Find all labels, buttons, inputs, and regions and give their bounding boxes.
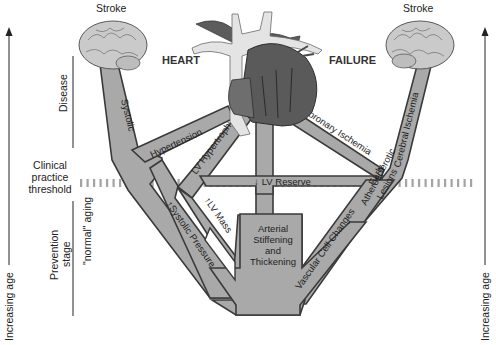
lv-reserve-arrow: ↓ xyxy=(254,176,259,187)
right-brain-icon xyxy=(386,21,454,69)
stage-disease: Disease xyxy=(57,74,69,112)
threshold-line-3: threshold xyxy=(28,183,71,195)
label-arterial-4: Thickening xyxy=(250,256,296,267)
normal-aging-label: "normal" aging xyxy=(81,197,93,265)
label-arterial-3: and xyxy=(265,245,281,256)
threshold-line-2: practice xyxy=(32,171,69,183)
prevention-line-1: Prevention xyxy=(48,230,60,280)
left-stroke-label: Stroke xyxy=(96,2,127,14)
left-brain-icon xyxy=(79,21,147,70)
label-lv-reserve: ↓LV Reserve xyxy=(254,176,311,187)
heart-failure-diagram: Systolic Hypertension LV Hypertrophy ↓LV… xyxy=(0,0,496,345)
band-lv-reserve xyxy=(256,120,273,216)
title-heart: HEART xyxy=(162,54,200,66)
right-stroke-label: Stroke xyxy=(403,2,434,14)
prevention-line-2: stage xyxy=(60,241,72,267)
title-failure: FAILURE xyxy=(329,54,376,66)
left-axis-label: Increasing age xyxy=(3,272,15,341)
left-age-axis: Increasing age xyxy=(3,27,15,341)
label-arterial-2: Stiffening xyxy=(253,234,292,245)
right-axis-label: Increasing age xyxy=(479,272,491,341)
right-age-axis: Increasing age xyxy=(479,27,491,341)
right-axis-arrow-icon xyxy=(482,27,489,36)
left-axis-arrow-icon xyxy=(6,27,13,36)
label-arterial-1: Arterial xyxy=(258,223,288,234)
threshold-line-1: Clinical xyxy=(33,159,67,171)
